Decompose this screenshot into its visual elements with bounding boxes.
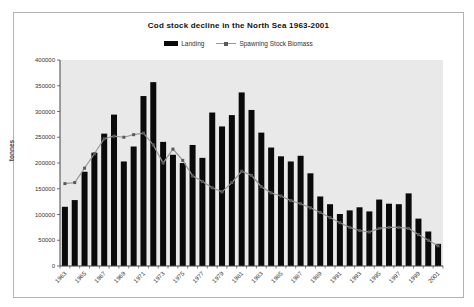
ssb-point-1989 <box>319 211 322 214</box>
bar-1989 <box>317 196 323 266</box>
bar-1981 <box>239 92 245 266</box>
y-tick-label: 400000 <box>35 57 56 63</box>
bar-1996 <box>386 204 392 266</box>
x-tick-label: 1979 <box>211 270 225 284</box>
ssb-point-1993 <box>358 229 361 232</box>
bar-1976 <box>190 145 196 266</box>
x-tick-label: 1981 <box>231 270 245 284</box>
bar-1988 <box>307 173 313 266</box>
x-tick-label: 1977 <box>191 270 205 284</box>
ssb-point-1997 <box>397 226 400 229</box>
x-tick-label: 1969 <box>113 270 127 284</box>
ssb-point-1977 <box>201 180 204 183</box>
ssb-point-1980 <box>230 181 233 184</box>
ssb-point-1974 <box>171 148 174 151</box>
x-tick-label: 1987 <box>290 270 304 284</box>
ssb-point-1964 <box>73 181 76 184</box>
y-tick-label: 150000 <box>35 186 56 192</box>
x-tick-label: 1999 <box>407 270 421 284</box>
ssb-point-1976 <box>191 174 194 177</box>
y-tick-label: 100000 <box>35 212 56 218</box>
x-tick-label: 1993 <box>349 270 363 284</box>
cod-stock-plot: 0500001000001500002000002500003000003500… <box>0 0 474 307</box>
y-tick-label: 250000 <box>35 134 56 140</box>
ssb-point-1966 <box>93 152 96 155</box>
bar-1986 <box>288 161 294 266</box>
ssb-point-1963 <box>63 182 66 185</box>
ssb-point-1986 <box>289 199 292 202</box>
bar-1964 <box>72 200 78 266</box>
ssb-point-1981 <box>240 170 243 173</box>
bar-1969 <box>121 161 127 266</box>
ssb-point-1985 <box>279 194 282 197</box>
bar-1972 <box>150 82 156 266</box>
bar-1987 <box>298 156 304 266</box>
x-tick-label: 1985 <box>270 270 284 284</box>
bar-1995 <box>376 200 382 266</box>
bar-1983 <box>258 133 264 266</box>
bar-1974 <box>170 155 176 266</box>
bar-1966 <box>91 153 97 266</box>
ssb-point-1996 <box>387 226 390 229</box>
bar-1975 <box>180 163 186 266</box>
ssb-point-1983 <box>260 185 263 188</box>
x-tick-label: 1991 <box>329 270 343 284</box>
bar-1963 <box>62 207 68 266</box>
x-tick-label: 1973 <box>152 270 166 284</box>
bar-1985 <box>278 156 284 266</box>
x-tick-label: 1967 <box>93 270 107 284</box>
bar-1967 <box>101 134 107 266</box>
ssb-point-1999 <box>417 233 420 236</box>
ssb-point-2000 <box>427 239 430 242</box>
ssb-point-1991 <box>338 221 341 224</box>
bar-2000 <box>425 232 431 267</box>
bar-1965 <box>82 172 88 266</box>
x-tick-label: 1971 <box>133 270 147 284</box>
y-tick-label: 50000 <box>38 237 55 243</box>
ssb-point-1971 <box>142 132 145 135</box>
x-tick-label: 1983 <box>250 270 264 284</box>
x-tick-label: 1997 <box>388 270 402 284</box>
ssb-point-1990 <box>329 216 332 219</box>
bar-1990 <box>327 204 333 266</box>
ssb-point-1972 <box>152 143 155 146</box>
x-tick-label: 1975 <box>172 270 186 284</box>
x-tick-label: 1963 <box>54 270 68 284</box>
bar-1982 <box>249 110 255 266</box>
x-tick-label: 1965 <box>74 270 88 284</box>
ssb-point-1988 <box>309 206 312 209</box>
bar-1997 <box>396 204 402 266</box>
ssb-point-1979 <box>221 190 224 193</box>
ssb-point-1967 <box>103 137 106 140</box>
bar-1993 <box>357 207 363 266</box>
ssb-point-1998 <box>407 227 410 230</box>
bar-1977 <box>199 158 205 266</box>
bar-1971 <box>140 96 146 266</box>
ssb-point-1975 <box>181 159 184 162</box>
ssb-point-1978 <box>211 186 214 189</box>
y-tick-label: 350000 <box>35 83 56 89</box>
ssb-point-1965 <box>83 167 86 170</box>
ssb-point-1992 <box>348 226 351 229</box>
bar-1980 <box>229 115 235 266</box>
y-tick-label: 0 <box>52 263 56 269</box>
ssb-point-1969 <box>122 136 125 139</box>
x-tick-label: 1995 <box>368 270 382 284</box>
ssb-point-1982 <box>250 174 253 177</box>
bar-1992 <box>347 210 353 266</box>
bar-1994 <box>366 211 372 266</box>
ssb-point-2001 <box>437 244 440 247</box>
ssb-point-1994 <box>368 231 371 234</box>
ssb-point-1968 <box>113 135 116 138</box>
x-tick-label: 2001 <box>427 270 441 284</box>
ssb-point-1984 <box>270 191 273 194</box>
bar-1979 <box>219 126 225 266</box>
x-tick-label: 1989 <box>309 270 323 284</box>
ssb-point-1995 <box>378 227 381 230</box>
bar-1999 <box>415 219 421 266</box>
ssb-point-1987 <box>299 202 302 205</box>
bar-1984 <box>268 148 274 266</box>
ssb-point-1973 <box>162 162 165 165</box>
bar-1970 <box>131 147 137 266</box>
ssb-point-1970 <box>132 133 135 136</box>
